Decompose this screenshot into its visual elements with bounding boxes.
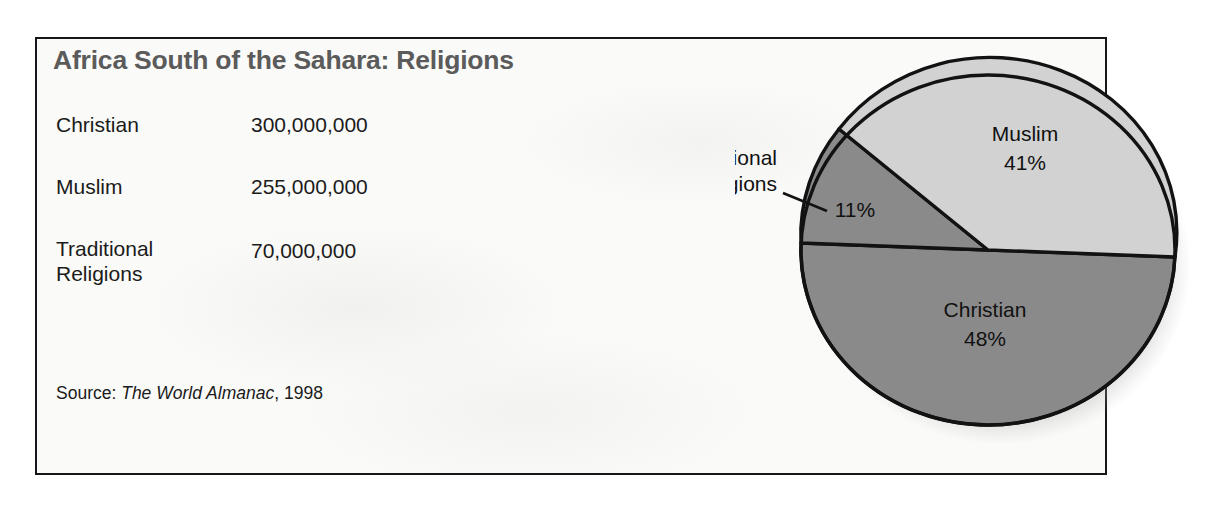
pie-label-christian-name: Christian — [944, 298, 1027, 321]
table-row: Christian 300,000,000 — [56, 112, 476, 174]
source-publication-title: The World Almanac — [121, 383, 274, 403]
row-label-christian: Christian — [56, 112, 139, 137]
row-value-traditional-religions: 70,000,000 — [251, 238, 356, 263]
pie-callout-traditional-line1: Traditional — [735, 146, 777, 169]
table-row: TraditionalReligions 70,000,000 — [56, 236, 476, 298]
table-row: Muslim 255,000,000 — [56, 174, 476, 236]
pie-label-christian-percent: 48% — [964, 327, 1006, 350]
source-line: Source: The World Almanac, 1998 — [56, 383, 323, 404]
chart-title: Africa South of the Sahara: Religions — [53, 45, 514, 76]
row-value-christian: 300,000,000 — [251, 112, 368, 137]
pie-label-muslim-percent: 41% — [1004, 151, 1046, 174]
source-prefix: Source: — [56, 383, 121, 403]
row-label-traditional-religions: TraditionalReligions — [56, 236, 153, 286]
row-label-muslim: Muslim — [56, 174, 123, 199]
source-year: , 1998 — [274, 383, 323, 403]
pie-chart: Muslim 41% Christian 48% 11% Traditional… — [735, 25, 1215, 455]
pie-callout-traditional-line2: Religions — [735, 172, 777, 195]
religion-data-table: Christian 300,000,000 Muslim 255,000,000… — [56, 112, 476, 298]
pie-label-traditional-percent: 11% — [835, 198, 875, 221]
row-value-muslim: 255,000,000 — [251, 174, 368, 199]
pie-label-muslim-name: Muslim — [992, 122, 1059, 145]
